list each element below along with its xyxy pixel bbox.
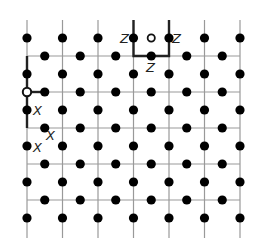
- qubit-dot: [76, 159, 85, 168]
- qubit-dot: [129, 177, 138, 186]
- qubit-dot: [147, 87, 156, 96]
- qubit-dot: [235, 141, 244, 150]
- qubit-dot: [93, 33, 102, 42]
- x-label-bottom: X: [32, 140, 43, 155]
- qubit-dot: [129, 33, 138, 42]
- qubit-dot: [218, 159, 227, 168]
- star-vertex-marker: [23, 88, 31, 96]
- qubit-dot: [235, 69, 244, 78]
- qubit-dot: [58, 213, 67, 222]
- z-label-bottom: Z: [145, 60, 156, 75]
- z-label-right: Z: [171, 31, 182, 46]
- qubit-dot: [22, 105, 31, 114]
- qubit-dot: [22, 177, 31, 186]
- qubit-dot: [93, 213, 102, 222]
- x-label-top: X: [32, 103, 43, 118]
- qubit-dot: [129, 105, 138, 114]
- qubit-dot: [200, 33, 209, 42]
- qubit-dot: [111, 87, 120, 96]
- qubit-dot: [200, 105, 209, 114]
- qubit-dot: [93, 69, 102, 78]
- qubit-dot: [58, 177, 67, 186]
- qubit-dot: [40, 195, 49, 204]
- qubit-dot: [200, 177, 209, 186]
- qubit-dot: [182, 159, 191, 168]
- qubit-dot: [111, 195, 120, 204]
- qubit-dot: [40, 51, 49, 60]
- qubit-dot: [40, 87, 49, 96]
- qubit-dot: [235, 33, 244, 42]
- qubit-dot: [22, 69, 31, 78]
- qubit-dot: [111, 51, 120, 60]
- qubit-dot: [58, 105, 67, 114]
- qubit-dot: [111, 159, 120, 168]
- qubit-dot: [218, 123, 227, 132]
- qubit-dot: [40, 159, 49, 168]
- qubit-dot: [93, 105, 102, 114]
- qubit-dot: [182, 87, 191, 96]
- qubit-dot: [164, 177, 173, 186]
- qubit-dot: [22, 213, 31, 222]
- qubit-dot: [182, 51, 191, 60]
- qubit-dot: [93, 141, 102, 150]
- qubit-dot: [58, 141, 67, 150]
- qubit-dot: [182, 195, 191, 204]
- qubit-dot: [129, 213, 138, 222]
- qubit-dot: [218, 51, 227, 60]
- z-label-left: Z: [119, 31, 130, 46]
- qubit-dot: [235, 177, 244, 186]
- qubit-dot: [182, 123, 191, 132]
- qubit-dot: [76, 87, 85, 96]
- qubit-dot: [218, 87, 227, 96]
- qubit-dot: [164, 213, 173, 222]
- qubit-dot: [76, 195, 85, 204]
- toric-code-diagram: Z Z Z X X X: [0, 0, 256, 251]
- qubit-dot: [129, 141, 138, 150]
- operator-labels: Z Z Z X X X: [32, 31, 182, 155]
- qubit-dot: [200, 141, 209, 150]
- x-label-right: X: [45, 128, 56, 143]
- qubit-dot: [111, 123, 120, 132]
- plaquette-center-marker: [148, 34, 155, 41]
- qubit-dot: [200, 69, 209, 78]
- qubit-dot: [147, 195, 156, 204]
- qubit-dot: [58, 69, 67, 78]
- qubit-dot: [129, 69, 138, 78]
- qubit-dot: [93, 177, 102, 186]
- lattice-svg: Z Z Z X X X: [0, 0, 256, 251]
- qubit-dot: [235, 213, 244, 222]
- qubit-dot: [76, 51, 85, 60]
- qubit-dot: [164, 105, 173, 114]
- qubit-dot: [218, 195, 227, 204]
- qubit-dot: [147, 123, 156, 132]
- qubit-dot: [22, 141, 31, 150]
- qubit-dot: [58, 33, 67, 42]
- qubit-dot: [76, 123, 85, 132]
- qubit-dot: [200, 213, 209, 222]
- special-markers: [23, 34, 155, 96]
- qubit-dot: [22, 33, 31, 42]
- qubit-dot: [164, 141, 173, 150]
- qubit-dot: [147, 159, 156, 168]
- qubit-dot: [235, 105, 244, 114]
- qubit-dot: [164, 69, 173, 78]
